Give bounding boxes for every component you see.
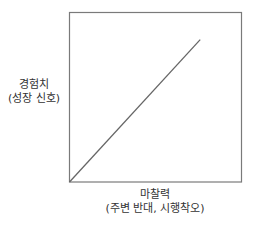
trend-line [70, 40, 201, 182]
x-axis-label: 마찰력 (주변 반대, 시행착오) [100, 188, 210, 216]
x-axis-label-main: 마찰력 [100, 188, 210, 202]
y-axis-label-main: 경험치 [0, 78, 68, 92]
x-axis-label-sub: (주변 반대, 시행착오) [100, 202, 210, 216]
y-axis-label: 경험치 (성장 신호) [0, 78, 68, 106]
y-axis-label-sub: (성장 신호) [0, 92, 68, 106]
chart-frame [70, 13, 242, 183]
